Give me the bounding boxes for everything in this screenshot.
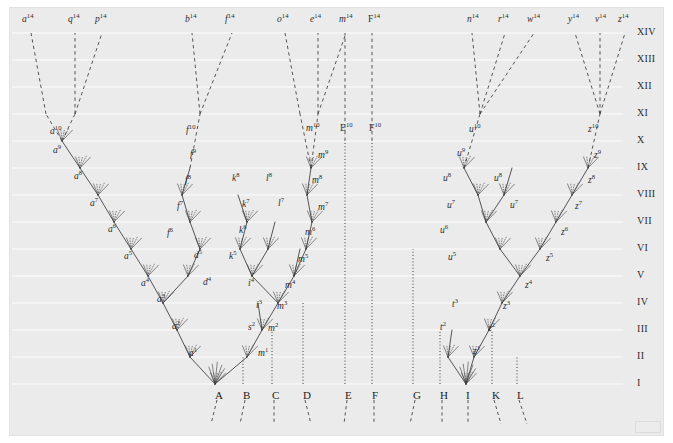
branch-segment (131, 249, 148, 276)
level-numeral-I: I (637, 378, 641, 388)
dashed-branch (192, 33, 200, 114)
base-tail-A (211, 400, 217, 424)
node-label-k7: k7 (242, 200, 250, 210)
node-label-u5: u5 (448, 253, 456, 263)
branch-segment (486, 195, 504, 222)
branch-segment (556, 195, 572, 222)
node-label-z4: z4 (525, 281, 532, 291)
level10-label-f10: f10 (186, 126, 196, 136)
node-label-z1: z1 (473, 347, 480, 357)
node-label-a6: a6 (108, 225, 116, 235)
branch-segment (502, 276, 520, 303)
top-label-w14: w14 (527, 15, 540, 25)
level10-label-m10: m10 (306, 124, 320, 134)
divergence-twig (190, 210, 192, 222)
base-taxon-B: B (243, 390, 250, 401)
divergence-twig (312, 210, 314, 222)
top-label-e14: e14 (310, 15, 321, 25)
base-taxon-G: G (413, 390, 421, 401)
branch-segment (190, 357, 215, 384)
base-taxon-H: H (440, 390, 448, 401)
node-label-a2: a2 (172, 322, 180, 332)
node-label-z8: z8 (588, 176, 595, 186)
node-label-m5: m5 (298, 255, 308, 265)
base-tail-K (494, 400, 501, 424)
node-label-a5: a5 (124, 252, 132, 262)
level-numeral-VI: VI (637, 243, 648, 253)
node-label-u7: u7 (510, 201, 518, 211)
level-numeral-XII: XII (637, 81, 652, 91)
node-label-i4: i4 (248, 279, 254, 289)
node-label-k6: k6 (239, 226, 247, 236)
dashed-branch (600, 33, 625, 114)
node-label-m6: m6 (305, 228, 315, 238)
base-taxon-C: C (272, 390, 279, 401)
level-numeral-V: V (637, 270, 645, 280)
dashed-branch (472, 33, 480, 114)
dashed-branch (31, 33, 46, 114)
level-numeral-IX: IX (637, 162, 648, 172)
node-label-t3: t3 (452, 300, 458, 310)
base-tail-L (519, 400, 527, 424)
node-label-a3: a3 (157, 295, 165, 305)
dashed-branch (575, 33, 600, 114)
branch-segment (62, 141, 80, 168)
level10-label-E10: E10 (340, 124, 353, 134)
figure-stage: a14q14p14b14f14o14e14m14F14n14r14w14y14v… (0, 0, 673, 443)
divergence-twig (131, 237, 133, 249)
node-label-m2: m2 (268, 324, 278, 334)
dashed-branch (318, 33, 346, 114)
base-taxon-E: E (345, 390, 352, 401)
top-label-a14: a14 (22, 15, 34, 25)
divergence-twig (148, 264, 150, 276)
level10-label-z10: z10 (588, 125, 599, 135)
level-numeral-IV: IV (637, 297, 648, 307)
divergence-twig (114, 210, 116, 222)
base-taxon-A: A (215, 390, 223, 401)
divergence-twig (80, 156, 82, 168)
divergence-twig (247, 210, 249, 222)
branch-segment (252, 276, 278, 303)
top-label-n14: n14 (467, 15, 479, 25)
branch-segment (520, 249, 540, 276)
node-label-u9: u9 (457, 149, 465, 159)
solid-branches-group (62, 141, 588, 384)
top-label-z14: z14 (618, 15, 629, 25)
branch-fans-group (58, 129, 599, 384)
dashed-branch (75, 33, 102, 114)
node-label-a1: a1 (189, 349, 197, 359)
node-label-z2: z2 (488, 324, 495, 334)
node-label-z3: z3 (503, 302, 510, 312)
branch-segment (540, 222, 556, 249)
top-label-v14: v14 (595, 15, 606, 25)
branch-segment (114, 222, 131, 249)
base-taxon-I: I (466, 390, 470, 401)
branch-segment (448, 330, 452, 357)
dashed-branch (285, 33, 300, 114)
branch-segment (307, 195, 312, 222)
node-label-a7: a7 (90, 199, 98, 209)
top-label-p14: p14 (95, 15, 107, 25)
top-label-r14: r14 (498, 15, 509, 25)
node-label-m1: m1 (258, 349, 268, 359)
top-label-m14: m14 (339, 15, 353, 25)
level10-label-F10: F10 (369, 124, 381, 134)
top-label-o14: o14 (277, 15, 289, 25)
node-label-t2: t2 (440, 323, 446, 333)
branch-segment (486, 222, 500, 249)
dashed-branch (62, 114, 75, 141)
branch-segment (448, 357, 466, 384)
level10-label-a10: a10 (50, 127, 62, 137)
base-tail-G (410, 400, 415, 424)
dashed-branch (480, 33, 534, 114)
node-label-m4: m4 (285, 281, 295, 291)
base-taxon-F: F (372, 390, 378, 401)
base-tails-group (211, 400, 527, 424)
node-label-f8: f8 (185, 176, 191, 186)
level-numeral-XIII: XIII (637, 54, 655, 64)
node-label-u7: u7 (447, 201, 455, 211)
level-numeral-XI: XI (637, 108, 648, 118)
divergence-twig (478, 183, 480, 195)
level-numeral-VII: VII (637, 216, 652, 226)
level-numeral-XIV: XIV (637, 27, 656, 37)
